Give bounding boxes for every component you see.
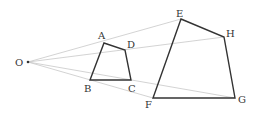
quadrilateral-ADCB [90, 43, 131, 80]
vertex-label-C: C [128, 83, 136, 94]
vertex-label-B: B [84, 83, 91, 94]
homothety-diagram: OADCBEHGF [0, 0, 257, 117]
center-point [27, 61, 30, 64]
vertex-label-A: A [97, 30, 106, 41]
vertex-label-F: F [145, 99, 152, 110]
diagram-canvas: OADCBEHGF [0, 0, 257, 117]
vertex-label-D: D [127, 39, 135, 50]
vertex-label-O: O [15, 57, 23, 68]
vertex-label-H: H [226, 28, 235, 39]
vertex-label-G: G [238, 94, 246, 105]
vertex-label-E: E [176, 8, 183, 19]
